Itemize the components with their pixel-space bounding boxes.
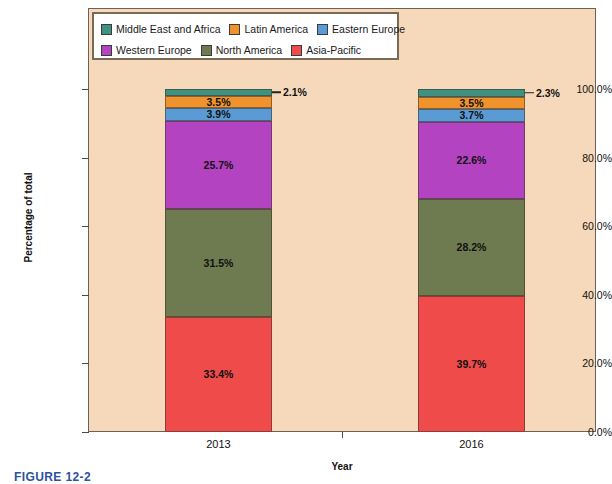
y-tick-mark <box>82 363 89 364</box>
legend-item-latin-america: Latin America <box>229 24 308 35</box>
legend-swatch-icon <box>201 45 212 56</box>
bar-segment-value-label: 3.5% <box>460 98 484 109</box>
legend-swatch-icon <box>101 24 112 35</box>
bar-segment[interactable] <box>418 89 525 97</box>
leader-line <box>272 92 281 94</box>
y-tick-label: 0.0% <box>554 426 612 438</box>
bar-segment-value-label: 39.7% <box>457 359 487 370</box>
x-tick-label: 2016 <box>412 438 532 450</box>
bar-segment[interactable]: 3.5% <box>418 97 525 109</box>
bar-segment[interactable]: 3.7% <box>418 109 525 122</box>
legend-row-2: Western Europe North America Asia-Pacifi… <box>101 40 390 61</box>
y-tick-mark <box>82 89 89 90</box>
legend-swatch-icon <box>317 24 328 35</box>
bar-segment-value-label: 3.5% <box>207 97 231 108</box>
legend-item-eastern-europe: Eastern Europe <box>317 24 405 35</box>
legend-label: Western Europe <box>116 45 192 56</box>
y-tick-label: 60.0% <box>554 220 612 232</box>
bar-segment[interactable]: 25.7% <box>165 121 272 209</box>
y-tick-mark <box>82 158 89 159</box>
bar-segment[interactable]: 22.6% <box>418 122 525 200</box>
bar-segment-value-label: 2.1% <box>283 86 307 98</box>
legend-item-asia-pacific: Asia-Pacific <box>291 45 361 56</box>
figure-container: Percentage of total 0.0%20.0%40.0%60.0%8… <box>0 0 612 484</box>
bar-segment[interactable]: 28.2% <box>418 199 525 296</box>
legend-item-middle-east-and-africa: Middle East and Africa <box>101 24 220 35</box>
y-tick-label: 100.0% <box>554 83 612 95</box>
legend-label: Middle East and Africa <box>116 24 220 35</box>
chart-legend: Middle East and Africa Latin America Eas… <box>92 12 399 60</box>
bar-segment[interactable]: 3.9% <box>165 108 272 121</box>
figure-caption: FIGURE 12-2 <box>14 470 91 484</box>
y-tick-mark <box>82 226 89 227</box>
x-axis-title: Year <box>88 461 596 472</box>
bar-segment[interactable] <box>165 89 272 96</box>
legend-label: Asia-Pacific <box>306 45 361 56</box>
legend-row-1: Middle East and Africa Latin America Eas… <box>101 19 390 40</box>
x-tick-label: 2013 <box>159 438 279 450</box>
y-tick-label: 40.0% <box>554 289 612 301</box>
legend-label: Latin America <box>244 24 308 35</box>
x-tick-mark <box>342 432 343 438</box>
bar-segment-value-label: 3.9% <box>207 109 231 120</box>
y-tick-label: 20.0% <box>554 357 612 369</box>
stacked-bar[interactable]: 39.7%28.2%22.6%3.7%3.5% <box>418 89 525 432</box>
bar-segment-value-label: 2.3% <box>536 87 560 99</box>
legend-item-north-america: North America <box>201 45 283 56</box>
bar-segment-value-label: 22.6% <box>457 155 487 166</box>
bar-segment-value-label: 33.4% <box>204 369 234 380</box>
y-tick-label: 80.0% <box>554 152 612 164</box>
y-tick-mark <box>82 295 89 296</box>
bar-segment[interactable]: 31.5% <box>165 209 272 317</box>
stacked-bar[interactable]: 33.4%31.5%25.7%3.9%3.5% <box>165 89 272 432</box>
bar-segment[interactable]: 3.5% <box>165 96 272 108</box>
y-tick-mark <box>82 432 89 433</box>
legend-swatch-icon <box>229 24 240 35</box>
bar-segment[interactable]: 33.4% <box>165 317 272 432</box>
bar-segment-value-label: 31.5% <box>204 258 234 269</box>
bar-segment[interactable]: 39.7% <box>418 296 525 432</box>
legend-label: Eastern Europe <box>332 24 405 35</box>
legend-swatch-icon <box>291 45 302 56</box>
legend-item-western-europe: Western Europe <box>101 45 192 56</box>
bar-segment-value-label: 3.7% <box>460 110 484 121</box>
y-axis-title: Percentage of total <box>23 158 34 278</box>
legend-label: North America <box>216 45 283 56</box>
bar-segment-value-label: 25.7% <box>204 160 234 171</box>
bar-segment-value-label: 28.2% <box>457 242 487 253</box>
leader-line <box>525 92 534 94</box>
legend-swatch-icon <box>101 45 112 56</box>
